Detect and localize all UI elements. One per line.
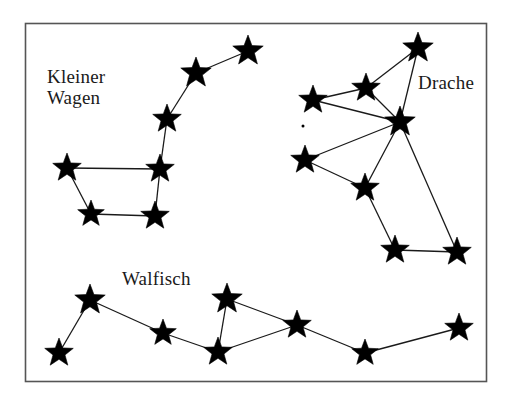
constellation-label-walfisch: Walfisch xyxy=(122,268,191,289)
constellation-label-kleiner-wagen: Kleiner Wagen xyxy=(47,66,105,109)
star-chart-figure: Kleiner Wagen Drache Walfisch xyxy=(0,0,509,405)
faint-star-dots xyxy=(302,125,305,128)
constellation-canvas xyxy=(0,0,509,405)
constellation-label-drache: Drache xyxy=(418,72,474,93)
faint-star-dot xyxy=(302,125,305,128)
